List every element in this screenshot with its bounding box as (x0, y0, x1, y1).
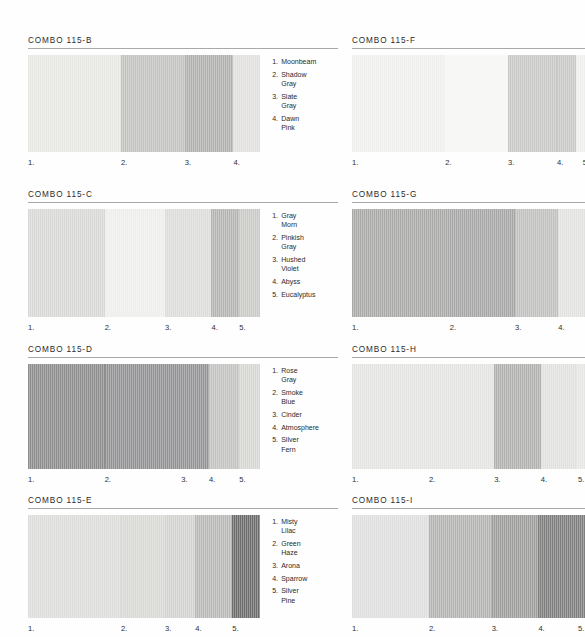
swatch-tick-label: 1. (28, 323, 34, 332)
color-name-number: 3. (272, 410, 281, 419)
color-swatch[interactable] (239, 209, 260, 317)
swatch-area: 1.2.3.4.5. (28, 209, 260, 337)
color-swatch[interactable] (508, 55, 557, 152)
swatch-tick-label: 2. (429, 624, 435, 633)
color-swatch[interactable] (494, 364, 541, 469)
color-swatch[interactable] (233, 55, 260, 152)
color-swatch[interactable] (541, 364, 576, 469)
color-swatch[interactable] (450, 209, 515, 317)
color-swatch[interactable] (352, 515, 429, 618)
color-swatch[interactable] (492, 515, 539, 618)
color-name-text: SlateGray (281, 92, 338, 111)
color-name-number: 2. (272, 539, 281, 558)
color-swatch[interactable] (195, 515, 232, 618)
swatch-area: 1.2.3.4.5. (352, 364, 585, 489)
color-swatch[interactable] (352, 364, 494, 469)
title-divider (352, 357, 585, 358)
color-swatch[interactable] (28, 364, 105, 469)
title-divider (352, 48, 585, 49)
color-name-text: SilverFern (281, 435, 338, 454)
swatch-band-group (352, 364, 585, 469)
color-swatch[interactable] (105, 364, 182, 469)
color-swatch[interactable] (28, 55, 121, 152)
color-swatch[interactable] (557, 55, 576, 152)
color-swatch[interactable] (576, 55, 585, 152)
color-name-item: 2.PinkishGray (272, 233, 338, 252)
color-name-line: Atmosphere (281, 423, 338, 432)
color-swatch[interactable] (209, 364, 239, 469)
color-swatch[interactable] (576, 515, 585, 618)
color-swatch[interactable] (352, 209, 450, 317)
color-swatch[interactable] (576, 364, 585, 469)
swatch-tick-label: 2. (445, 158, 451, 167)
combo-panel-combo-115-e: COMBO 115-E1.2.3.4.5.1.MistyLilac2.Green… (28, 496, 338, 637)
color-name-line: Silver (281, 586, 338, 595)
swatch-tick-label: 1. (28, 475, 34, 484)
combo-body: 1.2.3.4.5. (352, 515, 585, 637)
swatch-area: 1.2.3.4.5. (352, 55, 585, 172)
combo-panel-combo-115-i: COMBO 115-I1.2.3.4.5. (352, 496, 585, 637)
color-name-line: Green (281, 539, 338, 548)
combo-panel-combo-115-h: COMBO 115-H1.2.3.4.5. (352, 345, 585, 489)
color-swatch[interactable] (429, 515, 492, 618)
swatch-tick-label: 3. (165, 624, 171, 633)
swatch-tick-label: 3. (185, 158, 191, 167)
swatch-tick-label: 2. (105, 323, 111, 332)
color-name-number: 1. (272, 517, 281, 536)
color-swatch[interactable] (181, 364, 209, 469)
swatch-band-group (28, 209, 260, 317)
color-swatch[interactable] (105, 209, 165, 317)
color-name-item: 3.SlateGray (272, 92, 338, 111)
color-swatch[interactable] (28, 515, 121, 618)
swatch-tick-label: 2. (121, 624, 127, 633)
swatch-band-group (352, 55, 585, 152)
color-name-line: Blue (281, 397, 338, 406)
color-name-text: Sparrow (281, 574, 338, 583)
combo-body: 1.2.3.4.1.Moonbeam2.ShadowGray3.SlateGra… (28, 55, 338, 172)
combo-title: COMBO 115-E (28, 496, 338, 508)
swatch-area: 1.2.3.4.5. (28, 364, 260, 489)
color-name-line: Smoke (281, 388, 338, 397)
color-swatch[interactable] (515, 209, 558, 317)
color-name-line: Shadow (281, 70, 338, 79)
color-swatch[interactable] (121, 55, 185, 152)
color-swatch[interactable] (165, 209, 211, 317)
color-swatch[interactable] (165, 515, 195, 618)
color-name-line: Eucalyptus (281, 290, 338, 299)
color-name-line: Sparrow (281, 574, 338, 583)
color-name-line: Gray (281, 375, 338, 384)
combo-title: COMBO 115-F (352, 36, 585, 48)
color-name-line: Fern (281, 445, 338, 454)
color-name-text: RoseGray (281, 366, 338, 385)
swatch-tick-label: 4. (195, 624, 201, 633)
color-swatch[interactable] (232, 515, 260, 618)
combo-title: COMBO 115-I (352, 496, 585, 508)
color-swatch[interactable] (211, 209, 239, 317)
color-swatch[interactable] (538, 515, 575, 618)
color-name-text: ShadowGray (281, 70, 338, 89)
color-name-item: 3.HushedViolet (272, 255, 338, 274)
color-name-number: 4. (272, 114, 281, 133)
color-swatch[interactable] (445, 55, 508, 152)
combo-title: COMBO 115-D (28, 345, 338, 357)
swatch-tick-label: 1. (352, 475, 358, 484)
color-name-line: Morn (281, 220, 338, 229)
swatch-tick-label: 1. (352, 323, 358, 332)
color-swatch[interactable] (185, 55, 234, 152)
swatch-tick-label: 1. (352, 158, 358, 167)
color-name-number: 2. (272, 388, 281, 407)
title-divider (352, 508, 585, 509)
color-swatch[interactable] (239, 364, 260, 469)
color-swatch[interactable] (558, 209, 585, 317)
color-name-item: 1.MistyLilac (272, 517, 338, 536)
swatch-tick-row: 1.2.3.4.5. (352, 622, 585, 637)
color-name-line: Haze (281, 548, 338, 557)
color-name-text: DawnPink (281, 114, 338, 133)
color-name-number: 4. (272, 423, 281, 432)
combo-body: 1.2.3.4.5.1.RoseGray2.SmokeBlue3.Cinder4… (28, 364, 338, 489)
color-swatch[interactable] (352, 55, 445, 152)
color-swatch[interactable] (28, 209, 105, 317)
swatch-tick-label: 2. (105, 475, 111, 484)
color-name-item: 4.Sparrow (272, 574, 338, 583)
color-swatch[interactable] (121, 515, 165, 618)
